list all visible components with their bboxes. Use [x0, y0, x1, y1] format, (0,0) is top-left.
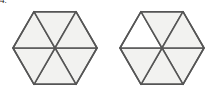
left-hexagon [13, 12, 97, 85]
hexagon-figure: 4. [0, 0, 213, 96]
right-hexagon [120, 12, 204, 85]
hexagons-svg [0, 0, 213, 96]
